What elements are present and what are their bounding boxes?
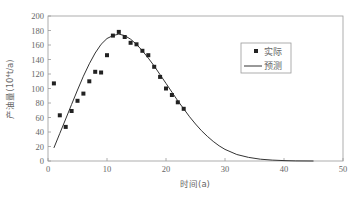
legend-predicted-label: 预测 [264,61,282,71]
y-tick-label: 160 [31,40,44,50]
data-point [105,53,109,57]
y-axis-title: 产油量(10⁴t/a) [5,59,15,118]
data-point [164,87,168,91]
data-point [140,49,144,53]
data-point [87,79,91,83]
data-point [135,42,139,46]
data-point [81,92,85,96]
data-point [182,107,186,111]
data-point [64,125,68,129]
x-tick-label: 40 [280,164,289,174]
data-point [70,109,74,113]
x-tick-label: 30 [221,164,230,174]
x-tick-label: 0 [46,164,50,174]
x-tick-label: 20 [162,164,171,174]
x-axis: 01020304050 [46,158,347,174]
y-tick-label: 140 [31,55,44,65]
y-tick-label: 80 [36,98,45,108]
plot-area [48,16,343,161]
data-point [99,71,103,75]
y-tick-label: 40 [36,127,45,137]
data-point [52,81,56,85]
x-tick-label: 10 [103,164,112,174]
y-tick-label: 180 [31,26,44,36]
data-point [76,99,80,103]
data-point [129,41,133,45]
y-tick-label: 100 [31,84,44,94]
data-point [111,34,115,38]
y-tick-label: 60 [36,113,45,123]
legend-actual-label: 实际 [264,46,282,57]
plot-border [48,16,343,161]
data-point [158,75,162,79]
y-tick-label: 0 [40,156,44,166]
legend: 实际 预测 [241,43,291,73]
data-point [58,113,62,117]
y-tick-label: 200 [31,11,44,21]
x-axis-title: 时间(a) [180,179,210,189]
data-point [170,93,174,97]
actual-points [52,30,186,129]
data-point [93,70,97,74]
data-point [117,30,121,34]
data-point [146,53,150,57]
y-tick-label: 120 [31,69,44,79]
y-tick-label: 20 [36,142,45,152]
chart: 020406080100120140160180200 01020304050 … [0,0,357,197]
square-marker-icon [254,49,258,53]
data-point [152,65,156,69]
data-point [123,35,127,39]
data-point [176,100,180,104]
x-tick-label: 50 [339,164,348,174]
